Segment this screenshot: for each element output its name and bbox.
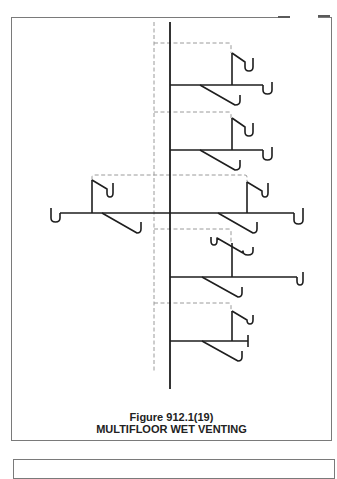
vent-connector [154,112,231,118]
drain-pipe [232,53,253,71]
drain-pipe [232,118,253,136]
drain-pipe [92,180,113,197]
drain-pipe [263,147,272,160]
vent-connector [154,229,231,243]
figure-number: Figure 912.1(19) [11,411,332,423]
drain-pipe [294,208,303,224]
drain-pipe [218,213,257,233]
drain-pipe [232,311,253,324]
drain-pipe [200,150,240,170]
drain-pipe [263,82,272,94]
drain-pipe [297,272,303,285]
drain-pipe [202,341,242,361]
vent-connector [154,303,231,311]
drain-branches-and-traps [51,53,303,361]
figure-title: MULTIFLOOR WET VENTING [11,423,332,435]
drain-pipe [102,213,141,233]
drain-pipe [247,182,268,197]
vent-connector [154,43,231,53]
drain-pipe [200,85,240,105]
next-figure-frame [13,459,335,479]
drain-pipe [202,277,242,297]
drain-pipe [51,208,60,222]
